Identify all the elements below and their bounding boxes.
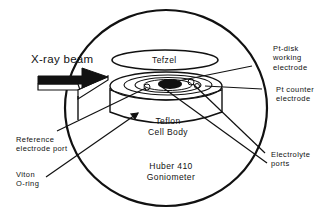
viton-line1: Viton bbox=[16, 170, 39, 179]
xray-beam-label: X-ray beam bbox=[31, 52, 93, 66]
teflon-line2: Cell Body bbox=[140, 127, 196, 138]
xray-beam-arrow bbox=[38, 68, 108, 120]
pt-disk-working-electrode-label: Pt-disk working electrode bbox=[273, 44, 307, 72]
teflon-cell-body-label: Teflon Cell Body bbox=[140, 116, 196, 137]
pt-disk-line2: working bbox=[273, 53, 307, 62]
huber-line2: Goniometer bbox=[136, 172, 206, 183]
viton-o-ring-label: Viton O-ring bbox=[16, 170, 39, 189]
pt-counter-line1: Pt counter bbox=[276, 85, 314, 94]
electrolyte-line1: Electrolyte bbox=[271, 150, 310, 159]
pt-counter-line2: electrode bbox=[276, 94, 314, 103]
pt-counter-electrode-label: Pt counter electrode bbox=[276, 85, 314, 104]
pt-disk-line3: electrode bbox=[273, 63, 307, 72]
reference-line2: electrode port bbox=[16, 144, 67, 153]
cell-diagram: X-ray beam Tefzel Pt-disk working electr… bbox=[0, 0, 330, 212]
huber-goniometer-label: Huber 410 Goniometer bbox=[136, 161, 206, 182]
pt-disk-line1: Pt-disk bbox=[273, 44, 307, 53]
electrolyte-line2: ports bbox=[271, 159, 310, 168]
reference-line1: Reference bbox=[16, 135, 67, 144]
teflon-line1: Teflon bbox=[140, 116, 196, 127]
electrolyte-ports-label: Electrolyte ports bbox=[271, 150, 310, 169]
reference-electrode-port-label: Reference electrode port bbox=[16, 135, 67, 154]
tefzel-label: Tefzel bbox=[152, 55, 177, 66]
viton-line2: O-ring bbox=[16, 179, 39, 188]
huber-line1: Huber 410 bbox=[136, 161, 206, 172]
